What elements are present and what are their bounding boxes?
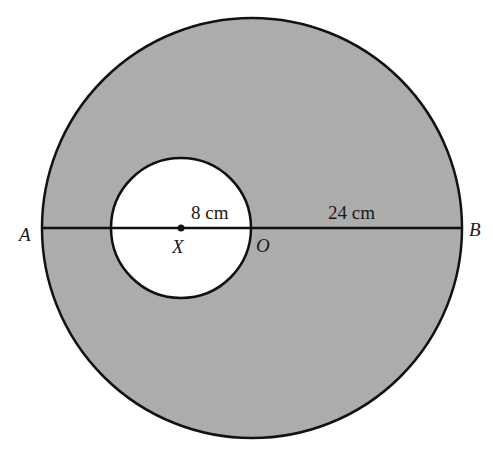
outer-radius-label: 24 cm xyxy=(328,202,375,223)
label-b: B xyxy=(469,219,481,240)
label-o: O xyxy=(256,235,270,256)
annulus-diagram: A B X O 8 cm 24 cm xyxy=(0,0,493,456)
label-x: X xyxy=(171,236,185,257)
center-point-x xyxy=(178,225,185,232)
inner-radius-label: 8 cm xyxy=(191,202,229,223)
label-a: A xyxy=(17,224,31,245)
